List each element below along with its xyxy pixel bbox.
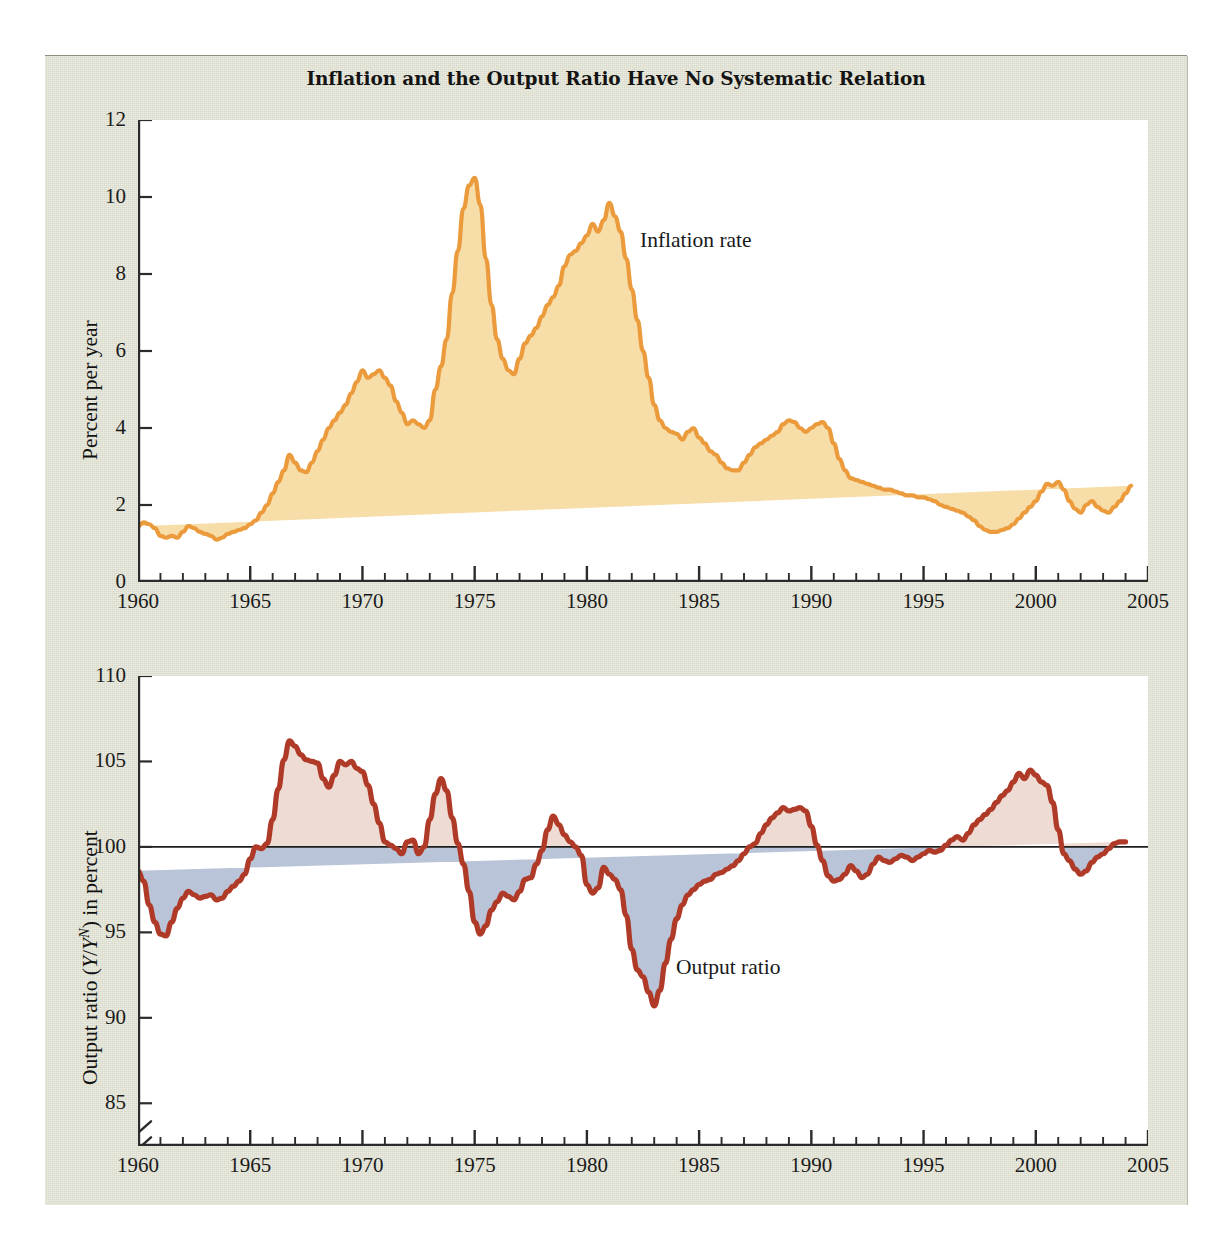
output-ratio-y-tick-label: 110 [72,663,126,688]
inflation-x-tick-label: 2000 [1001,589,1071,614]
output-ratio-x-ticks [138,1130,1148,1146]
output-ratio-y-axis-title: Output ratio (Y/YN) in percent [76,830,103,1085]
inflation-area-fill [138,178,1131,540]
inflation-series-label: Inflation rate [640,228,752,253]
output-ratio-x-tick-label: 1980 [552,1153,622,1178]
inflation-y-tick-label: 10 [88,184,126,209]
output-ratio-x-tick-label: 1985 [664,1153,734,1178]
inflation-x-tick-label: 1995 [889,589,959,614]
output-ratio-x-tick-label: 1965 [215,1153,285,1178]
inflation-x-tick-label: 2005 [1113,589,1183,614]
inflation-chart [138,120,1148,582]
output-ratio-x-tick-label: 1995 [889,1153,959,1178]
output-ratio-chart [138,676,1148,1146]
output-ratio-y-tick-label: 85 [72,1090,126,1115]
output-ratio-x-tick-label: 1990 [776,1153,846,1178]
inflation-x-ticks [138,566,1148,582]
output-ratio-x-tick-label: 1975 [440,1153,510,1178]
output-ratio-x-tick-label: 1970 [327,1153,397,1178]
inflation-y-axis-title: Percent per year [78,320,103,460]
output-ratio-x-tick-label: 1960 [103,1153,173,1178]
output-ratio-y-tick-label: 105 [72,748,126,773]
inflation-x-tick-label: 1990 [776,589,846,614]
output-ratio-series-label: Output ratio [676,955,781,980]
output-ratio-x-tick-label: 2005 [1113,1153,1183,1178]
inflation-x-tick-label: 1970 [327,589,397,614]
inflation-x-tick-label: 1980 [552,589,622,614]
inflation-x-tick-label: 1975 [440,589,510,614]
inflation-y-tick-label: 12 [88,107,126,132]
output-ratio-x-tick-label: 2000 [1001,1153,1071,1178]
figure-page: Inflation and the Output Ratio Have No S… [0,0,1232,1236]
inflation-x-tick-label: 1960 [103,589,173,614]
inflation-x-tick-label: 1985 [664,589,734,614]
output-ratio-plot-svg [138,676,1148,1146]
inflation-x-tick-label: 1965 [215,589,285,614]
inflation-plot-svg [138,120,1148,582]
inflation-y-tick-label: 8 [88,261,126,286]
page-title: Inflation and the Output Ratio Have No S… [45,68,1187,89]
inflation-y-tick-label: 2 [88,492,126,517]
